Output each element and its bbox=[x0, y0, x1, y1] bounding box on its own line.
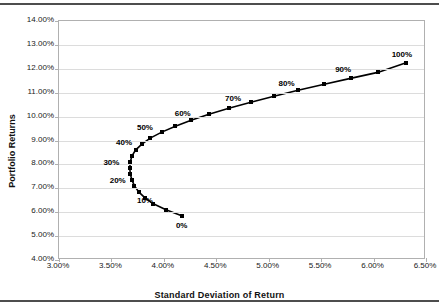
x-axis-title: Standard Deviation of Return bbox=[0, 290, 439, 300]
x-axis-tick-label: 6.50% bbox=[414, 262, 437, 270]
y-axis-tick bbox=[55, 117, 59, 118]
data-point-marker bbox=[130, 178, 134, 182]
data-point-label: 70% bbox=[225, 93, 241, 102]
y-axis-tick bbox=[55, 21, 59, 22]
data-point-marker bbox=[207, 112, 211, 116]
y-axis-tick bbox=[55, 45, 59, 46]
x-axis-tick-label: 4.00% bbox=[152, 262, 175, 270]
gridline-horizontal bbox=[59, 93, 424, 94]
x-axis-tick-label: 3.00% bbox=[47, 262, 70, 270]
gridline-horizontal bbox=[59, 141, 424, 142]
y-axis-tick-label: 6.00% bbox=[4, 207, 54, 215]
y-axis-tick bbox=[55, 69, 59, 70]
y-axis-tick-label: 11.00% bbox=[4, 88, 54, 96]
y-axis-tick-label: 8.00% bbox=[4, 159, 54, 167]
y-axis-tick-label: 10.00% bbox=[4, 112, 54, 120]
y-axis-tick bbox=[55, 188, 59, 189]
y-axis-tick-label: 14.00% bbox=[4, 16, 54, 24]
y-axis-tick bbox=[55, 93, 59, 94]
gridline-horizontal bbox=[59, 45, 424, 46]
data-point-marker bbox=[148, 136, 152, 140]
data-point-marker bbox=[134, 148, 138, 152]
data-point-marker bbox=[137, 190, 141, 194]
gridline-horizontal bbox=[59, 69, 424, 70]
data-point-marker bbox=[322, 82, 326, 86]
data-point-marker bbox=[180, 214, 184, 218]
bottom-divider-rule bbox=[0, 300, 439, 302]
data-point-marker bbox=[140, 142, 144, 146]
y-axis-tick bbox=[55, 236, 59, 237]
y-axis-tick-label: 7.00% bbox=[4, 183, 54, 191]
data-point-marker bbox=[227, 106, 231, 110]
plot-area: 0%10%20%30%40%50%60%70%80%90%100% bbox=[58, 20, 425, 259]
x-axis-tick-labels: 3.00%3.50%4.00%4.50%5.00%5.50%6.00%6.50% bbox=[58, 262, 425, 276]
y-axis-tick bbox=[55, 212, 59, 213]
gridline-horizontal bbox=[59, 188, 424, 189]
x-axis-tick-label: 4.50% bbox=[204, 262, 227, 270]
data-point-label: 10% bbox=[137, 195, 153, 204]
data-point-label: 60% bbox=[175, 109, 191, 118]
data-point-label: 0% bbox=[176, 221, 188, 230]
efficient-frontier-chart: Portfolio Returns 4.00%5.00%6.00%7.00%8.… bbox=[0, 6, 439, 299]
y-axis-tick-labels: 4.00%5.00%6.00%7.00%8.00%9.00%10.00%11.0… bbox=[0, 20, 54, 259]
y-axis-tick bbox=[55, 141, 59, 142]
data-point-marker bbox=[128, 160, 132, 164]
data-point-label: 30% bbox=[103, 158, 119, 167]
data-point-marker bbox=[130, 154, 134, 158]
gridline-horizontal bbox=[59, 236, 424, 237]
data-point-marker bbox=[296, 88, 300, 92]
data-point-label: 90% bbox=[335, 65, 351, 74]
data-point-marker bbox=[189, 118, 193, 122]
x-axis-tick-label: 3.50% bbox=[99, 262, 122, 270]
gridline-horizontal bbox=[59, 212, 424, 213]
y-axis-tick-label: 12.00% bbox=[4, 64, 54, 72]
data-point-marker bbox=[173, 124, 177, 128]
data-point-label: 100% bbox=[392, 49, 412, 58]
data-point-marker bbox=[404, 61, 408, 65]
y-axis-tick-label: 5.00% bbox=[4, 231, 54, 239]
x-axis-tick-label: 5.50% bbox=[309, 262, 332, 270]
data-point-marker bbox=[160, 130, 164, 134]
data-point-label: 50% bbox=[137, 122, 153, 131]
x-axis-tick-label: 5.00% bbox=[256, 262, 279, 270]
data-point-marker bbox=[376, 70, 380, 74]
data-point-marker bbox=[128, 172, 132, 176]
data-point-marker bbox=[128, 166, 132, 170]
data-point-marker bbox=[349, 76, 353, 80]
data-point-label: 80% bbox=[279, 79, 295, 88]
y-axis-tick-label: 13.00% bbox=[4, 40, 54, 48]
data-point-marker bbox=[249, 100, 253, 104]
y-axis-tick bbox=[55, 164, 59, 165]
data-point-label: 40% bbox=[116, 138, 132, 147]
gridline-horizontal bbox=[59, 117, 424, 118]
data-point-marker bbox=[164, 208, 168, 212]
data-point-marker bbox=[272, 94, 276, 98]
data-point-marker bbox=[132, 184, 136, 188]
top-divider-rule bbox=[0, 3, 439, 5]
x-axis-tick-label: 6.00% bbox=[361, 262, 384, 270]
y-axis-tick-label: 9.00% bbox=[4, 136, 54, 144]
data-point-label: 20% bbox=[110, 175, 126, 184]
